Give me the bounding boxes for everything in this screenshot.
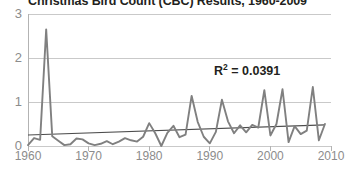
x-axis-tick-label: 1980 xyxy=(129,150,169,162)
r-squared-value: = 0.0391 xyxy=(228,64,280,78)
y-axis-tick-label: 2 xyxy=(0,51,22,64)
y-axis-tick-label: 1 xyxy=(0,95,22,108)
data-series-line xyxy=(28,29,325,146)
r-squared-symbol: R xyxy=(214,64,223,78)
x-axis-tick-label: 2000 xyxy=(250,150,290,162)
r-squared-annotation: R2 = 0.0391 xyxy=(214,64,280,78)
x-axis-tick-label: 1970 xyxy=(69,150,109,162)
x-axis-tick-label: 1990 xyxy=(190,150,230,162)
x-axis-tick-label: 1960 xyxy=(8,150,48,162)
x-axis-tick-label: 2010 xyxy=(311,150,349,162)
y-axis-tick-label: 3 xyxy=(0,7,22,20)
